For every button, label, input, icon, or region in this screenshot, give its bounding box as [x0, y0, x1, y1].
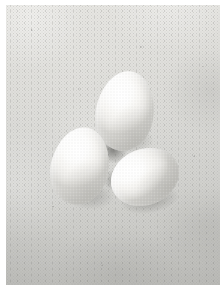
egg-top-highlight: [106, 78, 137, 114]
photograph: [6, 5, 220, 285]
egg-left-highlight: [62, 133, 95, 169]
photo-frame: Three white eggs arranged in a triangle …: [0, 0, 224, 286]
photo-caption: Three white eggs arranged in a triangle …: [0, 0, 1, 1]
egg-right-highlight: [116, 154, 154, 187]
